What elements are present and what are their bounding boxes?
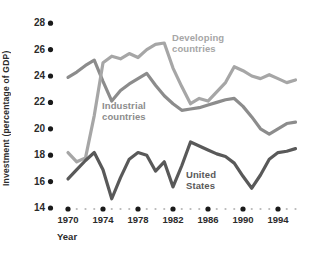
- y-tick-label-26: 26: [17, 45, 45, 55]
- y-tick-bullet: [48, 47, 53, 52]
- year-minor-dot: [111, 208, 113, 210]
- year-major-dot: [135, 206, 140, 211]
- year-minor-dot: [286, 208, 288, 210]
- year-major-dot: [100, 206, 105, 211]
- year-minor-dot: [198, 208, 200, 210]
- x-tick-label-1978: 1978: [121, 214, 155, 225]
- y-tick-bullet: [48, 205, 53, 210]
- y-tick-bullet: [48, 100, 53, 105]
- year-minor-dot: [224, 208, 226, 210]
- year-major-dot: [65, 206, 70, 211]
- year-major-dot: [275, 206, 280, 211]
- year-minor-dot: [119, 208, 121, 210]
- year-major-dot: [205, 206, 210, 211]
- x-tick-label-1990: 1990: [226, 214, 260, 225]
- y-tick-bullet: [48, 126, 53, 131]
- series-label-developing-countries: Developing countries: [172, 33, 224, 54]
- year-minor-dot: [294, 208, 296, 210]
- year-minor-dot: [76, 208, 78, 210]
- y-tick-label-16: 16: [17, 177, 45, 187]
- year-minor-dot: [154, 208, 156, 210]
- x-tick-label-1974: 1974: [86, 214, 120, 225]
- year-minor-dot: [216, 208, 218, 210]
- year-major-dot: [240, 206, 245, 211]
- x-tick-label-1986: 1986: [191, 214, 225, 225]
- y-tick-bullet: [48, 153, 53, 158]
- year-minor-dot: [146, 208, 148, 210]
- y-tick-label-24: 24: [17, 71, 45, 81]
- year-minor-dot: [233, 208, 235, 210]
- y-tick-label-14: 14: [17, 203, 45, 213]
- investment-gdp-line-chart: Investment (percentage of GDP) 282624222…: [0, 0, 312, 256]
- year-minor-dot: [128, 208, 130, 210]
- year-major-dot: [170, 206, 175, 211]
- year-minor-dot: [268, 208, 270, 210]
- year-minor-dot: [181, 208, 183, 210]
- series-label-united-states: United States: [186, 170, 216, 191]
- line-united-states: [68, 142, 296, 199]
- y-tick-bullet: [48, 73, 53, 78]
- y-tick-label-28: 28: [17, 18, 45, 28]
- y-tick-label-20: 20: [17, 124, 45, 134]
- year-minor-dot: [189, 208, 191, 210]
- y-tick-bullet: [48, 21, 53, 26]
- x-tick-label-1982: 1982: [156, 214, 190, 225]
- year-minor-dot: [251, 208, 253, 210]
- x-tick-label-1970: 1970: [51, 214, 85, 225]
- y-tick-bullet: [48, 179, 53, 184]
- year-minor-dot: [93, 208, 95, 210]
- year-minor-dot: [259, 208, 261, 210]
- y-tick-label-18: 18: [17, 150, 45, 160]
- y-tick-label-22: 22: [17, 97, 45, 107]
- year-minor-dot: [163, 208, 165, 210]
- x-tick-label-1994: 1994: [261, 214, 295, 225]
- year-minor-dot: [84, 208, 86, 210]
- x-axis-title: Year: [57, 231, 77, 242]
- series-label-industrial-countries: Industrial countries: [102, 101, 146, 122]
